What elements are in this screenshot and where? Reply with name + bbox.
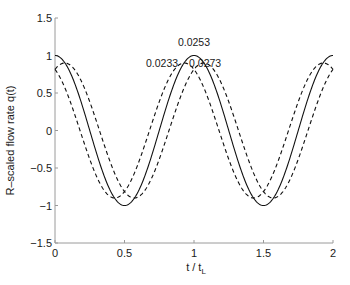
x-tick-label: 1.5: [256, 247, 271, 259]
y-tick-label: −1.5: [30, 237, 52, 249]
x-tick-label: 0.5: [117, 247, 132, 259]
y-tick-label: 0.5: [37, 87, 52, 99]
x-axis-label: t / tL: [186, 261, 206, 276]
axes: −1.5−1−0.500.511.500.511.52: [30, 12, 336, 259]
y-tick-label: 1.5: [37, 12, 52, 24]
annotation-label: 0.0233: [146, 57, 178, 69]
chart: −1.5−1−0.500.511.500.511.52 0.02530.0233…: [0, 0, 350, 285]
annotation-label: 0.0273: [189, 57, 221, 69]
series-line-0-0273: [55, 63, 333, 198]
series-line-0-0233: [55, 63, 333, 198]
x-axis-label-subscript: L: [201, 267, 206, 276]
x-tick-label: 1: [191, 247, 197, 259]
series-line-0-0253: [55, 56, 333, 206]
series-group: [55, 56, 333, 206]
y-axis-label: R–scaled flow rate q(t): [4, 85, 16, 195]
annotation-label: 0.0253: [178, 36, 210, 48]
x-tick-label: 2: [330, 247, 336, 259]
y-tick-label: 0: [46, 125, 52, 137]
x-tick-label: 0: [52, 247, 58, 259]
y-tick-label: 1: [46, 50, 52, 62]
y-tick-label: −1: [39, 200, 52, 212]
y-tick-label: −0.5: [30, 162, 52, 174]
